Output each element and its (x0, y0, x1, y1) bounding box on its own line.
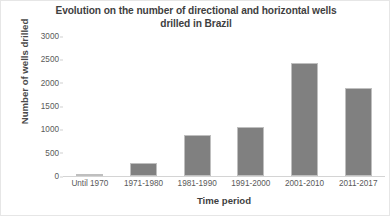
y-tick-label: 2000 (29, 78, 59, 87)
bar-chart: Evolution on the number of directional a… (0, 0, 390, 216)
chart-title-line-1: Evolution on the number of directional a… (1, 4, 390, 17)
chart-title-line-2: drilled in Brazil (1, 17, 390, 30)
bar-series (63, 36, 385, 176)
x-tick-label: Until 1970 (63, 179, 117, 188)
y-axis-tick-labels: 050010001500200025003000 (29, 36, 59, 176)
x-tick-label: 2001-2010 (278, 179, 332, 188)
bar[interactable] (345, 88, 372, 176)
bar-slot (278, 36, 332, 176)
chart-title: Evolution on the number of directional a… (1, 4, 390, 30)
y-axis-title: Number of wells drilled (19, 2, 30, 142)
y-tick-label: 2500 (29, 55, 59, 64)
bar[interactable] (237, 127, 264, 176)
x-tick-label: 1971-1980 (117, 179, 171, 188)
plot-area (63, 36, 385, 176)
bar-slot (170, 36, 224, 176)
x-tick-label: 2011-2017 (331, 179, 385, 188)
y-tick-label: 500 (29, 148, 59, 157)
bar[interactable] (184, 135, 211, 176)
bar[interactable] (291, 63, 318, 176)
bar-slot (117, 36, 171, 176)
y-tick-label: 3000 (29, 32, 59, 41)
y-tick-label: 1500 (29, 102, 59, 111)
x-axis-line (63, 176, 385, 177)
x-axis-tick-labels: Until 19701971-19801981-19901991-2000200… (63, 179, 385, 188)
bar-slot (224, 36, 278, 176)
x-tick-label: 1991-2000 (224, 179, 278, 188)
x-axis-title: Time period (63, 195, 385, 206)
x-tick-label: 1981-1990 (170, 179, 224, 188)
y-tick-label: 0 (29, 172, 59, 181)
y-tick-label: 1000 (29, 125, 59, 134)
bar-slot (63, 36, 117, 176)
bar-slot (331, 36, 385, 176)
bar[interactable] (130, 163, 157, 176)
